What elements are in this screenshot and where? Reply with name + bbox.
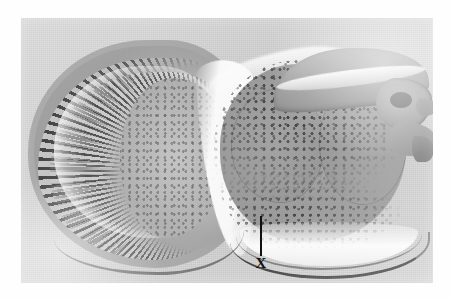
plate-softening-overlay [21, 18, 433, 283]
micrograph-plate [21, 18, 433, 283]
figure-root: X [0, 0, 453, 298]
